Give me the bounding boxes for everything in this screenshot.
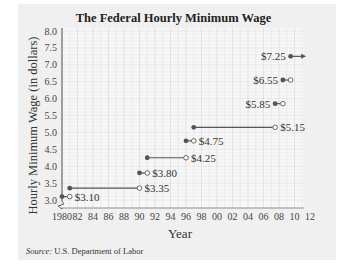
source-note: Source: U.S. Department of Labor [26, 246, 143, 256]
svg-text:02: 02 [228, 211, 238, 222]
svg-text:4.0: 4.0 [45, 161, 58, 172]
svg-text:06: 06 [259, 211, 269, 222]
svg-text:90: 90 [135, 211, 145, 222]
svg-text:7.0: 7.0 [45, 59, 58, 70]
svg-text:$5.85: $5.85 [245, 98, 270, 110]
svg-text:12: 12 [305, 211, 315, 222]
source-prefix: Source: [26, 246, 52, 256]
svg-text:98: 98 [197, 211, 207, 222]
svg-text:86: 86 [104, 211, 114, 222]
source-text: U.S. Department of Labor [52, 246, 143, 256]
svg-text:$7.25: $7.25 [261, 50, 286, 62]
svg-text:5.5: 5.5 [45, 110, 58, 121]
svg-text:$6.55: $6.55 [253, 74, 278, 86]
svg-text:$4.75: $4.75 [199, 135, 224, 147]
svg-text:3.5: 3.5 [45, 178, 58, 189]
svg-text:04: 04 [243, 211, 253, 222]
svg-text:08: 08 [274, 211, 284, 222]
svg-text:$3.10: $3.10 [75, 191, 100, 203]
svg-text:10: 10 [290, 211, 300, 222]
svg-text:82: 82 [73, 211, 83, 222]
svg-text:4.5: 4.5 [45, 144, 58, 155]
x-axis-label: Year [168, 226, 192, 242]
svg-text:94: 94 [166, 211, 176, 222]
svg-text:00: 00 [212, 211, 222, 222]
svg-text:84: 84 [88, 211, 98, 222]
svg-text:8.0: 8.0 [45, 26, 58, 37]
svg-text:92: 92 [150, 211, 160, 222]
svg-text:1980: 1980 [52, 211, 72, 222]
svg-text:$3.80: $3.80 [152, 167, 177, 179]
svg-text:88: 88 [119, 211, 129, 222]
svg-text:6.0: 6.0 [45, 93, 58, 104]
svg-text:$5.15: $5.15 [280, 121, 305, 133]
svg-text:96: 96 [181, 211, 191, 222]
svg-text:$4.25: $4.25 [191, 152, 216, 164]
svg-text:3.0: 3.0 [45, 195, 58, 206]
svg-text:5.0: 5.0 [45, 127, 58, 138]
svg-text:$3.35: $3.35 [145, 182, 170, 194]
y-axis-label: Hourly Minimum Wage (in dollars) [26, 31, 41, 221]
svg-text:7.5: 7.5 [45, 42, 58, 53]
svg-text:6.5: 6.5 [45, 76, 58, 87]
